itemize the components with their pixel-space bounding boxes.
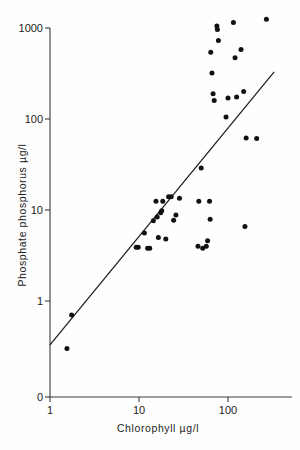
data-point xyxy=(216,38,221,43)
y-tick-label-0: 0 xyxy=(37,391,43,403)
data-point xyxy=(196,199,201,204)
data-point xyxy=(159,208,164,213)
data-point xyxy=(241,89,246,94)
data-point xyxy=(177,196,182,201)
data-point xyxy=(212,98,217,103)
x-tick-label-10: 10 xyxy=(133,404,145,416)
data-point xyxy=(195,244,200,249)
data-point xyxy=(171,218,176,223)
y-tick-label-1: 1 xyxy=(37,295,43,307)
y-tick-label-100: 100 xyxy=(25,113,43,125)
data-point xyxy=(234,94,239,99)
regression-line-path xyxy=(50,72,274,345)
y-tick-label-1000: 1000 xyxy=(19,22,43,34)
data-point xyxy=(233,55,238,60)
data-point xyxy=(151,218,156,223)
regression-line xyxy=(50,72,274,345)
x-tick-label-100: 100 xyxy=(219,404,237,416)
data-point xyxy=(153,199,158,204)
data-points xyxy=(64,17,268,351)
axis-titles: Chlorophyll µg/lPhosphate phosphorus µg/… xyxy=(16,143,199,434)
data-point xyxy=(231,20,236,25)
data-point xyxy=(215,27,220,32)
data-point xyxy=(239,47,244,52)
tick-marks xyxy=(45,28,228,402)
data-point xyxy=(142,230,147,235)
data-point xyxy=(136,245,141,250)
data-point xyxy=(264,17,269,22)
data-point xyxy=(209,71,214,76)
data-point xyxy=(156,235,161,240)
data-point xyxy=(242,224,247,229)
data-point xyxy=(160,199,165,204)
data-point xyxy=(169,194,174,199)
data-point xyxy=(147,246,152,251)
tick-labels: 01101001000110100 xyxy=(19,22,238,416)
data-point xyxy=(211,91,216,96)
y-axis-title: Phosphate phosphorus µg/l xyxy=(16,143,28,286)
data-point xyxy=(208,217,213,222)
data-point xyxy=(207,199,212,204)
data-point xyxy=(69,313,74,318)
data-point xyxy=(208,50,213,55)
scatter-plot: 01101001000110100 Chlorophyll µg/lPhosph… xyxy=(0,0,300,450)
data-point xyxy=(204,244,209,249)
data-point xyxy=(224,115,229,120)
data-point xyxy=(64,346,69,351)
axes xyxy=(50,28,292,397)
data-point xyxy=(244,135,249,140)
x-axis-title: Chlorophyll µg/l xyxy=(117,422,199,434)
data-point xyxy=(199,165,204,170)
data-point xyxy=(226,96,231,101)
y-tick-label-10: 10 xyxy=(31,204,43,216)
data-point xyxy=(205,238,210,243)
data-point xyxy=(173,213,178,218)
data-point xyxy=(254,136,259,141)
x-tick-label-1: 1 xyxy=(47,404,53,416)
figure-container: 01101001000110100 Chlorophyll µg/lPhosph… xyxy=(0,0,300,450)
data-point xyxy=(155,214,160,219)
data-point xyxy=(163,237,168,242)
